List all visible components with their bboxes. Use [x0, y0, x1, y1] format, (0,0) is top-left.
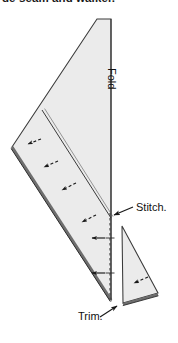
trimmed-corner-triangle	[122, 226, 158, 306]
trim-callout: Trim.	[78, 306, 117, 322]
trim-label: Trim.	[78, 310, 103, 322]
stitch-leader-arrow-icon	[114, 207, 133, 215]
triangle-face	[122, 226, 158, 303]
stitch-callout: Stitch.	[114, 201, 167, 215]
folded-fabric-main-panel	[12, 19, 111, 300]
sewing-diagram: Fold Stitch	[0, 0, 178, 343]
main-panel-face	[12, 19, 111, 300]
fold-label: Fold	[106, 68, 118, 89]
stitch-label: Stitch.	[136, 201, 167, 213]
figure-root: de seam and walker. Fold	[0, 0, 178, 343]
